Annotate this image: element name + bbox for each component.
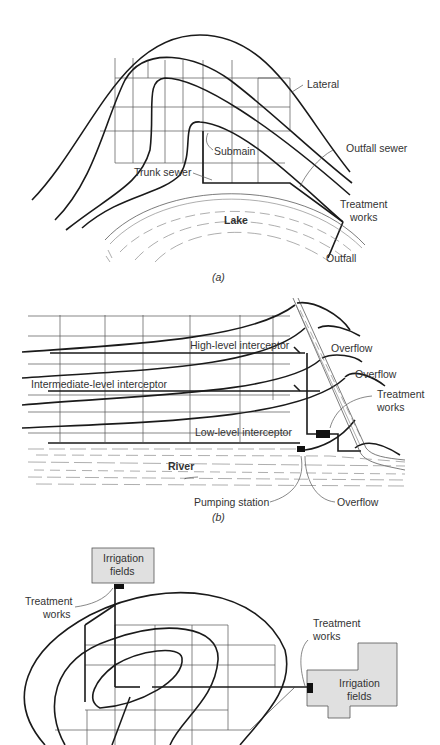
panel-a-street-grid <box>100 58 290 183</box>
caption-a: (a) <box>212 271 225 283</box>
label-trunk-sewer: Trunk sewer <box>134 166 192 178</box>
label-river: River <box>168 460 194 472</box>
treatment-works-b <box>316 430 330 438</box>
label-lateral: Lateral <box>307 78 339 90</box>
label-outfall-sewer: Outfall sewer <box>346 142 408 154</box>
sewer-layout-diagram: Lateral Submain Trunk sewer Outfall sewe… <box>0 0 440 745</box>
pumping-station <box>297 446 305 452</box>
panel-b: High-level interceptor Intermediate-leve… <box>22 298 425 523</box>
treatment-works-right <box>307 683 313 693</box>
label-treatment-works-right-2: works <box>312 630 340 642</box>
label-lake: Lake <box>224 214 248 226</box>
panel-a: Lateral Submain Trunk sewer Outfall sewe… <box>32 35 408 283</box>
label-overflow-2: Overflow <box>355 368 397 380</box>
label-irrigation-fields-right-2: fields <box>347 690 372 702</box>
label-treatment-works-right: Treatment <box>313 617 361 629</box>
panel-c: Irrigation fields Treatment works Treatm… <box>24 548 397 745</box>
label-high-level-interceptor: High-level interceptor <box>190 339 290 351</box>
label-irrigation-fields-top: Irrigation <box>103 552 144 564</box>
treatment-works-left <box>114 584 124 589</box>
label-treatment-works-a: Treatment <box>340 198 388 210</box>
label-low-level-interceptor: Low-level interceptor <box>195 426 292 438</box>
label-irrigation-fields-right: Irrigation <box>339 677 380 689</box>
label-treatment-works-left-2: works <box>42 608 70 620</box>
label-treatment-works-b: Treatment <box>377 388 425 400</box>
label-intermediate-level-interceptor: Intermediate-level interceptor <box>31 378 167 390</box>
label-treatment-works-b-2: works <box>376 401 404 413</box>
label-submain: Submain <box>214 145 256 157</box>
label-irrigation-fields-top-2: fields <box>110 565 135 577</box>
label-treatment-works-a-2: works <box>349 211 377 223</box>
label-outfall: Outfall <box>326 252 356 264</box>
caption-b: (b) <box>212 511 225 523</box>
label-treatment-works-left: Treatment <box>25 595 73 607</box>
label-overflow-3: Overflow <box>337 496 379 508</box>
label-overflow-1: Overflow <box>331 342 373 354</box>
label-pumping-station: Pumping station <box>194 496 269 508</box>
river <box>28 449 405 486</box>
tributary-stream <box>293 298 405 470</box>
